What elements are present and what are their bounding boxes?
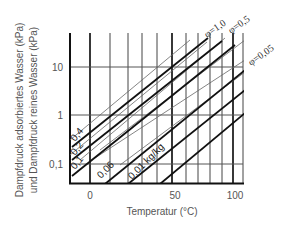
x-axis-title: Temperatur (°C) bbox=[126, 206, 197, 217]
label-phi-1-0: φ=1,0 bbox=[202, 17, 228, 40]
label-phi-0-05: φ=0,05 bbox=[246, 42, 276, 68]
x-tick-0: 0 bbox=[87, 190, 93, 201]
isostere-0-06 bbox=[105, 70, 245, 184]
major-vertical-gridlines bbox=[90, 33, 233, 184]
y-tick-10: 10 bbox=[52, 62, 64, 73]
x-tick-100: 100 bbox=[227, 190, 244, 201]
y-axis-title-line1: Dampfdruck adsorbiertes Wasser (kPa) bbox=[14, 23, 25, 198]
label-phi-0-5: φ=0,5 bbox=[226, 13, 252, 36]
isostere-0-4 bbox=[72, 38, 208, 147]
y-tick-0-1: 0,1 bbox=[49, 159, 63, 170]
x-tick-50: 50 bbox=[169, 190, 181, 201]
y-tick-1: 1 bbox=[57, 110, 63, 121]
vapor-pressure-chart: φ=1,0 φ=0,5 φ=0,05 0,4 0,2 0,1 0,06 0,01… bbox=[0, 0, 290, 226]
isostere-0-2 bbox=[72, 41, 222, 160]
y-axis-title-line2: und Dampfdruck reines Wasser (kPa) bbox=[28, 27, 39, 193]
